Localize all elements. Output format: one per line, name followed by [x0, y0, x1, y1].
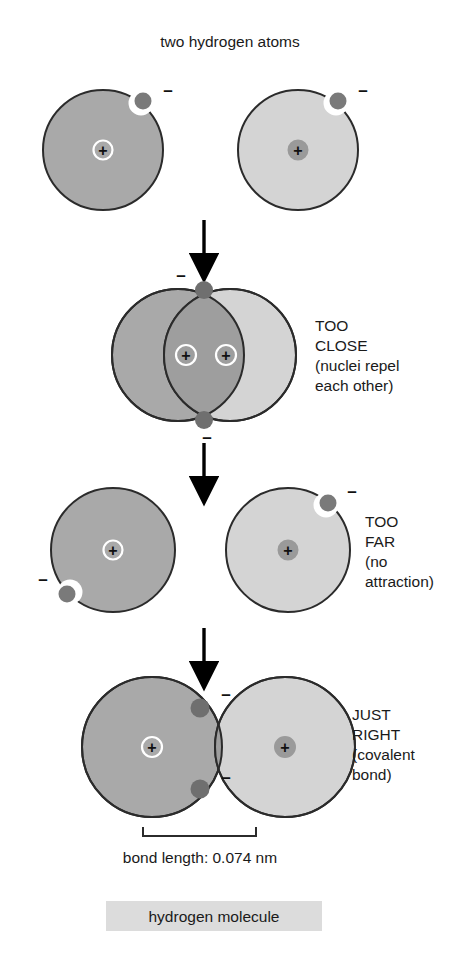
- annotation-just-right-line4: bond): [352, 766, 392, 783]
- electron-sign-top: –: [176, 266, 185, 285]
- electron-sign: –: [38, 570, 47, 589]
- bond-length-label: bond length: 0.074 nm: [123, 849, 277, 866]
- proton-sign-right: +: [280, 739, 289, 756]
- molecule-label: hydrogen molecule: [149, 908, 280, 925]
- annotation-just-right-line3: (covalent: [352, 746, 416, 763]
- electron-sign: –: [163, 81, 172, 100]
- annotation-too-far-line4: attraction): [365, 573, 434, 590]
- annotation-just-right-line2: RIGHT: [352, 726, 401, 743]
- proton-sign-left: +: [147, 739, 156, 756]
- electron-dot: [330, 93, 347, 110]
- annotation-too-close-line2: CLOSE: [315, 337, 368, 354]
- electron-dot: [59, 586, 76, 603]
- annotation-too-close-line1: TOO: [315, 317, 348, 334]
- figure-title: two hydrogen atoms: [160, 33, 300, 50]
- proton-sign: +: [283, 542, 292, 559]
- electron-dot-top: [195, 281, 213, 299]
- proton-sign-left: +: [181, 347, 190, 364]
- proton-sign-right: +: [221, 347, 230, 364]
- electron-sign-bottom: –: [221, 768, 230, 787]
- electron-sign: –: [347, 482, 356, 501]
- molecule-label-group: hydrogen molecule: [106, 901, 322, 931]
- annotation-too-far-line2: FAR: [365, 533, 395, 550]
- electron-dot-top: [191, 699, 210, 718]
- annotation-too-close-line3: (nuclei repel: [315, 357, 399, 374]
- electron-sign: –: [358, 81, 367, 100]
- hydrogen-bonding-diagram: two hydrogen atoms + – + –: [0, 0, 460, 958]
- annotation-just-right-line1: JUST: [352, 706, 391, 723]
- proton-sign: +: [108, 542, 117, 559]
- annotation-too-far-line3: (no: [365, 553, 387, 570]
- electron-dot-bottom: [191, 780, 210, 799]
- electron-dot: [135, 93, 152, 110]
- proton-sign: +: [293, 142, 302, 159]
- annotation-too-close-line4: each other): [315, 377, 393, 394]
- electron-sign-top: –: [221, 685, 230, 704]
- proton-sign: +: [98, 142, 107, 159]
- annotation-too-far-line1: TOO: [365, 513, 398, 530]
- electron-dot: [320, 495, 337, 512]
- electron-dot-bottom: [195, 411, 213, 429]
